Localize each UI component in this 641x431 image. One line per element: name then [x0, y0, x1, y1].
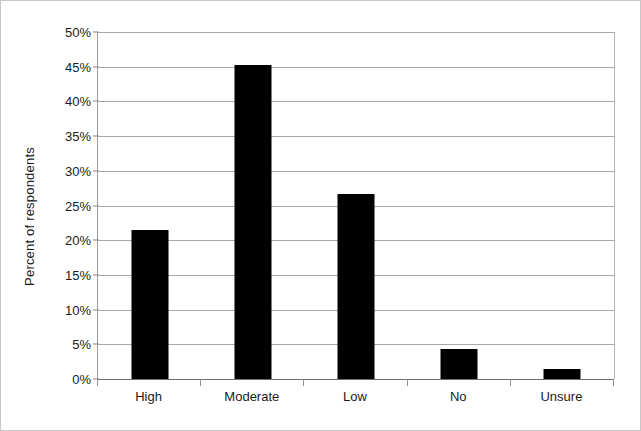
x-tick-mark [303, 379, 304, 386]
y-tick-label: 0% [72, 372, 91, 387]
bar-slot [408, 32, 511, 379]
bar[interactable] [131, 230, 168, 379]
x-tick-mark [510, 379, 511, 386]
bar-slot [201, 32, 304, 379]
x-tick-label: Unsure [510, 389, 613, 411]
x-tick-mark [97, 379, 98, 386]
x-tick-mark [407, 379, 408, 386]
y-tick-label: 20% [65, 233, 91, 248]
y-tick-label: 40% [65, 94, 91, 109]
bar-slot [304, 32, 407, 379]
x-tick-mark [613, 379, 614, 386]
bar-slot [98, 32, 201, 379]
bar[interactable] [544, 369, 581, 379]
bar[interactable] [441, 349, 478, 379]
x-tick-label: High [97, 389, 200, 411]
y-tick-label: 45% [65, 59, 91, 74]
y-tick-label: 50% [65, 25, 91, 40]
x-tick-mark [200, 379, 201, 386]
plot-area [97, 32, 615, 379]
x-axis-tick-marks [97, 379, 613, 387]
x-tick-label: Moderate [200, 389, 303, 411]
y-tick-label: 10% [65, 302, 91, 317]
bar[interactable] [234, 65, 271, 379]
bar-chart-figure: Percent of respondents 0%5%10%15%20%25%3… [0, 0, 641, 431]
y-tick-label: 30% [65, 163, 91, 178]
x-tick-label: No [407, 389, 510, 411]
x-tick-label: Low [303, 389, 406, 411]
y-tick-label: 25% [65, 198, 91, 213]
bar[interactable] [338, 194, 375, 379]
bar-slot [511, 32, 614, 379]
y-tick-label: 35% [65, 129, 91, 144]
x-axis-tick-labels: HighModerateLowNoUnsure [97, 389, 613, 411]
y-axis-tick-labels: 0%5%10%15%20%25%30%35%40%45%50% [41, 32, 91, 379]
y-tick-label: 5% [72, 337, 91, 352]
y-tick-label: 15% [65, 267, 91, 282]
bar-series [98, 32, 614, 379]
